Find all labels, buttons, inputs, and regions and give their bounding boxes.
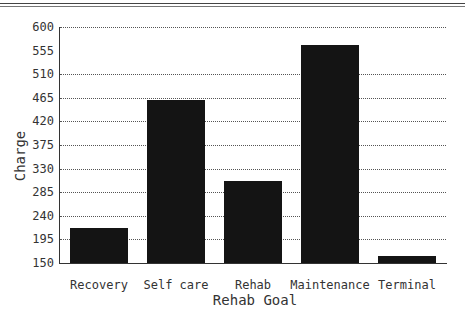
bar-rehab xyxy=(224,181,282,263)
gridline xyxy=(60,74,446,75)
y-tick-label: 600 xyxy=(14,21,54,33)
bar-terminal xyxy=(378,256,436,263)
y-tick-label: 330 xyxy=(14,163,54,175)
y-tick-label: 195 xyxy=(14,233,54,245)
x-axis xyxy=(59,263,447,264)
y-tick-label: 510 xyxy=(14,68,54,80)
x-tick-label: Terminal xyxy=(362,278,452,292)
y-tick-label: 240 xyxy=(14,210,54,222)
y-axis-title: Charge xyxy=(12,126,28,186)
y-tick-label: 375 xyxy=(14,139,54,151)
bar-self-care xyxy=(147,100,205,263)
gridline xyxy=(60,145,446,146)
bar-recovery xyxy=(70,228,128,263)
gridline xyxy=(60,121,446,122)
y-tick-label: 150 xyxy=(14,257,54,269)
bar-chart: Charge Rehab Goal 1501952402853303754204… xyxy=(0,0,465,322)
y-tick-label: 420 xyxy=(14,115,54,127)
gridline xyxy=(60,169,446,170)
bar-maintenance xyxy=(301,45,359,263)
y-tick-label: 285 xyxy=(14,186,54,198)
y-tick-label: 555 xyxy=(14,45,54,57)
gridline xyxy=(60,27,446,28)
gridline xyxy=(60,98,446,99)
x-axis-title: Rehab Goal xyxy=(200,292,310,308)
y-tick-label: 465 xyxy=(14,92,54,104)
